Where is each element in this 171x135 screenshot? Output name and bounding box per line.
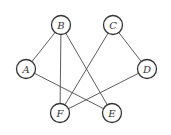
node-d: D [138,60,157,79]
edge-b-f [60,25,61,113]
node-e: E [103,104,122,123]
node-label: C [109,20,117,31]
node-label: A [21,64,29,75]
graph-diagram: ABCDFE [0,0,171,135]
node-b: B [52,16,71,35]
edges-group [26,25,147,113]
node-f: F [51,104,70,123]
node-c: C [104,16,123,35]
node-label: F [56,108,65,119]
node-label: B [56,20,64,31]
node-label: D [142,64,151,75]
node-a: A [17,60,36,79]
node-label: E [107,108,116,119]
